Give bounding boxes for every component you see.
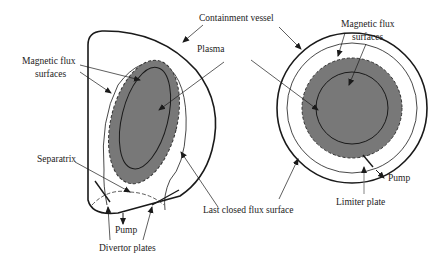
label-right-flux-line1: Magnetic flux [341,19,395,29]
label-containment-vessel: Containment vessel [199,13,274,23]
label-limiter-plate: Limiter plate [336,197,385,207]
divertor-configuration [75,25,224,240]
diagram-svg: Containment vessel Plasma Magnetic flux … [0,0,435,265]
label-left-pump: Pump [115,225,137,235]
plasma-confinement-diagram: Containment vessel Plasma Magnetic flux … [0,0,435,265]
label-last-closed-flux-surface: Last closed flux surface [203,205,293,215]
label-left-flux-line1: Magnetic flux [22,56,76,66]
label-left-flux-line2: surfaces [35,69,66,79]
label-separatrix: Separatrix [37,154,76,164]
divertor-plate-left [95,181,110,202]
label-divertor-plates: Divertor plates [99,243,156,253]
label-right-pump: Pump [388,173,410,183]
label-plasma: Plasma [197,44,225,54]
right-plasma [302,58,402,158]
label-right-flux-line2: surfaces [352,32,383,42]
limiter-plate [363,155,373,167]
